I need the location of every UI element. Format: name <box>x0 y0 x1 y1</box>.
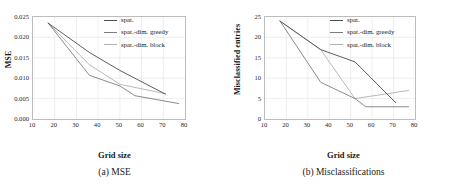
x-axis-tick-label: 40 <box>325 121 332 128</box>
x-axis-tick-label: 20 <box>50 121 57 128</box>
legend-item: spat.-dim. block <box>104 42 168 49</box>
x-axis-tick-label: 30 <box>304 121 311 128</box>
legend-item-label: spat.-dim. greedy <box>121 29 168 36</box>
legend-line-swatch-icon <box>104 44 117 45</box>
figure-two-panel-line-charts: MSE Grid size (a) MSE spat.spat.-dim. gr… <box>0 0 458 190</box>
legend-line-swatch-icon <box>330 44 343 45</box>
legend-item: spat. <box>330 17 394 24</box>
y-axis-tick-label: 0.005 <box>3 94 29 101</box>
panel-mse: MSE Grid size (a) MSE spat.spat.-dim. gr… <box>0 0 229 190</box>
legend-item: spat. <box>104 17 168 24</box>
legend-item-label: spat. <box>121 17 134 24</box>
x-axis-tick-label: 40 <box>94 121 101 128</box>
x-axis-label-mse: Grid size <box>0 150 229 160</box>
legend-line-swatch-icon <box>104 32 117 33</box>
legend-item-label: spat.-dim. block <box>121 42 165 49</box>
legend-item: spat.-dim. greedy <box>104 29 168 36</box>
x-axis-tick-label: 60 <box>368 121 375 128</box>
caption-mse: (a) MSE <box>0 167 229 177</box>
panel-misclassifications: Misclassified entries Grid size (b) Misc… <box>229 0 458 190</box>
x-axis-tick-label: 50 <box>116 121 123 128</box>
y-axis-tick-label: 0.000 <box>3 115 29 122</box>
y-axis-tick-label: 0.020 <box>3 33 29 40</box>
x-axis-tick-label: 80 <box>181 121 188 128</box>
caption-misclassifications: (b) Misclassifications <box>229 167 458 177</box>
x-axis-tick-label: 80 <box>411 121 418 128</box>
x-axis-tick-label: 70 <box>159 121 166 128</box>
y-axis-tick-label: 10 <box>235 74 261 81</box>
y-axis-tick-label: 0.025 <box>3 13 29 20</box>
legend-line-swatch-icon <box>330 32 343 33</box>
legend-line-swatch-icon <box>330 20 343 21</box>
x-axis-tick-label: 30 <box>72 121 79 128</box>
y-axis-tick-label: 0.015 <box>3 53 29 60</box>
legend-item: spat.-dim. greedy <box>330 29 394 36</box>
y-axis-tick-label: 5 <box>235 94 261 101</box>
legend-item-label: spat.-dim. block <box>347 42 391 49</box>
legend-item: spat.-dim. block <box>330 42 394 49</box>
y-axis-tick-label: 0.010 <box>3 74 29 81</box>
y-axis-tick-label: 0 <box>235 115 261 122</box>
y-axis-tick-label: 20 <box>235 33 261 40</box>
legend-misclassifications: spat.spat.-dim. greedyspat.-dim. block <box>330 17 394 54</box>
x-axis-tick-label: 50 <box>346 121 353 128</box>
x-axis-tick-label: 70 <box>389 121 396 128</box>
legend-item-label: spat.-dim. greedy <box>347 29 394 36</box>
y-axis-tick-label: 15 <box>235 53 261 60</box>
legend-mse: spat.spat.-dim. greedyspat.-dim. block <box>104 17 168 54</box>
x-axis-tick-label: 20 <box>282 121 289 128</box>
legend-item-label: spat. <box>347 17 360 24</box>
x-axis-tick-label: 10 <box>261 121 268 128</box>
y-axis-tick-label: 25 <box>235 13 261 20</box>
x-axis-tick-label: 10 <box>29 121 36 128</box>
x-axis-tick-label: 60 <box>137 121 144 128</box>
legend-line-swatch-icon <box>104 20 117 21</box>
x-axis-label-misclassifications: Grid size <box>229 150 458 160</box>
